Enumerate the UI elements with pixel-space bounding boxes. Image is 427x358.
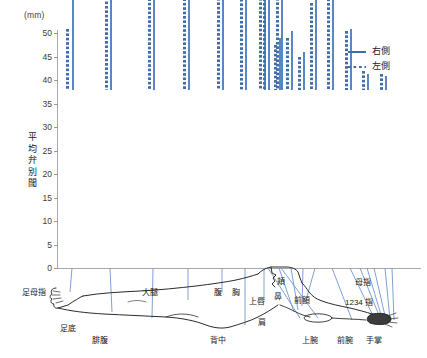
bar-fill <box>362 71 365 90</box>
bar-fill <box>332 0 334 90</box>
y-tick-mark-15 <box>54 198 58 199</box>
bar-fill <box>183 0 186 90</box>
bar-fill <box>110 0 112 90</box>
y-tick-mark-25 <box>54 151 58 152</box>
bar-fill <box>263 0 266 90</box>
y-tick-mark-35 <box>54 104 58 105</box>
legend: 右側 左側 <box>348 44 390 74</box>
bar-fill <box>245 0 247 90</box>
legend-label-right: 右側 <box>372 47 390 56</box>
y-tick-mark-20 <box>54 174 58 175</box>
bar-fill <box>259 0 262 90</box>
bar-fill <box>222 0 224 90</box>
bar-fill <box>217 0 220 90</box>
y-axis-title: 平均弁別閾 <box>26 132 38 190</box>
bar-fill <box>286 38 289 90</box>
y-tick-30: 30 <box>32 122 52 132</box>
bar-fill <box>291 31 293 90</box>
bar-fill <box>148 0 151 90</box>
body-silhouette <box>0 255 427 358</box>
bar-fill <box>385 76 387 90</box>
y-tick-mark-10 <box>54 221 58 222</box>
bar-fill <box>281 0 283 90</box>
legend-key-dotted <box>348 62 366 71</box>
y-axis-line <box>57 30 58 268</box>
legend-item-left: 左側 <box>348 59 390 74</box>
y-tick-25: 25 <box>32 146 52 156</box>
y-tick-15: 15 <box>32 193 52 203</box>
bar-fill <box>268 0 270 90</box>
y-tick-mark-50 <box>54 33 58 34</box>
bar-fill <box>327 0 330 90</box>
bar-fill <box>153 0 155 90</box>
bar-fill <box>66 29 69 90</box>
y-tick-mark-5 <box>54 245 58 246</box>
y-tick-50: 50 <box>32 28 52 38</box>
axis-unit-label: (mm) <box>24 10 45 20</box>
bar-fill <box>72 0 74 90</box>
y-tick-45: 45 <box>32 52 52 62</box>
y-tick-40: 40 <box>32 75 52 85</box>
bar-fill <box>315 0 317 90</box>
y-tick-10: 10 <box>32 216 52 226</box>
legend-key-solid <box>348 47 366 56</box>
y-tick-5: 5 <box>32 240 52 250</box>
bar-fill <box>298 57 301 90</box>
y-tick-35: 35 <box>32 99 52 109</box>
bar-fill <box>105 0 108 90</box>
y-tick-mark-30 <box>54 127 58 128</box>
y-tick-mark-40 <box>54 80 58 81</box>
y-tick-mark-45 <box>54 57 58 58</box>
legend-label-left: 左側 <box>372 62 390 71</box>
bar-fill <box>276 0 279 90</box>
bar-fill <box>240 0 243 90</box>
legend-item-right: 右側 <box>348 44 390 59</box>
bar-fill <box>188 0 190 90</box>
bar-fill <box>367 74 369 90</box>
bar-fill <box>303 52 305 90</box>
y-tick-20: 20 <box>32 169 52 179</box>
chart-root: (mm) 平均弁別閾 50454035302520151050 足母指足底腓腹大… <box>0 0 427 358</box>
bar-fill <box>310 3 313 90</box>
bar-fill <box>380 74 383 90</box>
